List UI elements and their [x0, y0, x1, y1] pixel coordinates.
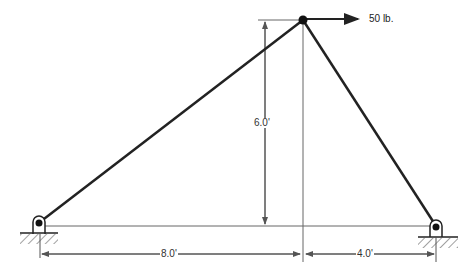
left-span-label: 8.0' — [160, 249, 178, 259]
load-label: 50 lb. — [368, 14, 394, 24]
right-span-label: 4.0' — [356, 249, 374, 259]
right-member — [303, 20, 436, 226]
left-pin-support-icon — [20, 216, 58, 258]
height-dimension-label: 6.0' — [253, 118, 271, 128]
truss-diagram: 50 lb. 6.0' 8.0' 4.0' — [0, 0, 475, 276]
apex-joint-icon — [299, 16, 308, 25]
truss-drawing — [0, 0, 475, 276]
